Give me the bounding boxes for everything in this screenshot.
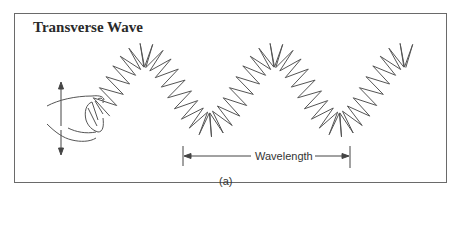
arrow-right-icon: [342, 154, 349, 159]
wavelength-label: Wavelength: [253, 150, 315, 162]
transverse-wave-spring: [93, 43, 413, 136]
figure-caption: (a): [219, 175, 232, 187]
arrow-left-icon: [184, 154, 191, 159]
vertical-motion-arrow-icon: [59, 82, 64, 155]
hand-icon: [47, 96, 104, 142]
